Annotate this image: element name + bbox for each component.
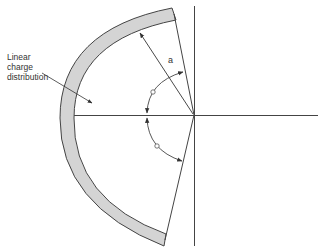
charge-label-line1: Linear [7, 52, 31, 62]
lower-angle-symbol-icon [155, 144, 159, 148]
upper-angle-symbol-icon [151, 90, 155, 94]
lower-boundary-line [165, 115, 194, 240]
radius-arrow [140, 33, 193, 114]
charged-arc-band [60, 8, 176, 246]
lower-angle-arc [147, 118, 182, 161]
charge-label-line3: distribution [7, 72, 48, 82]
charged-arc-diagram [0, 0, 318, 252]
radius-label: a [168, 55, 173, 65]
charge-label-line2: charge [7, 62, 33, 72]
